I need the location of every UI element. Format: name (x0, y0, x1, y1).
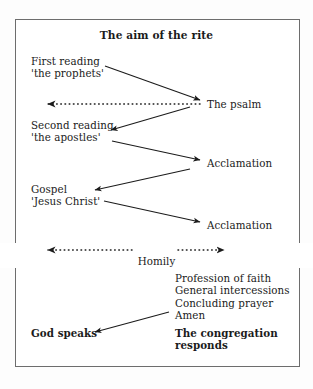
label-first-reading: First reading 'the prophets' (31, 55, 104, 80)
label-homily: Homily (0, 243, 313, 268)
label-congregation-responds: The congregation responds (175, 327, 278, 352)
page-title: The aim of the rite (0, 29, 313, 41)
label-acclamation-1: Acclamation (207, 157, 272, 169)
label-second-reading: Second reading 'the apostles' (31, 119, 114, 144)
label-gospel: Gospel 'Jesus Christ' (31, 183, 100, 208)
label-acclamation-2: Acclamation (207, 219, 272, 231)
label-god-speaks: God speaks (31, 327, 97, 339)
label-response-list: Profession of faith General intercession… (175, 272, 290, 322)
diagram-canvas: The aim of the rite First reading 'the p… (0, 0, 313, 389)
label-the-psalm: The psalm (207, 98, 261, 110)
homily-text: Homily (135, 255, 179, 267)
